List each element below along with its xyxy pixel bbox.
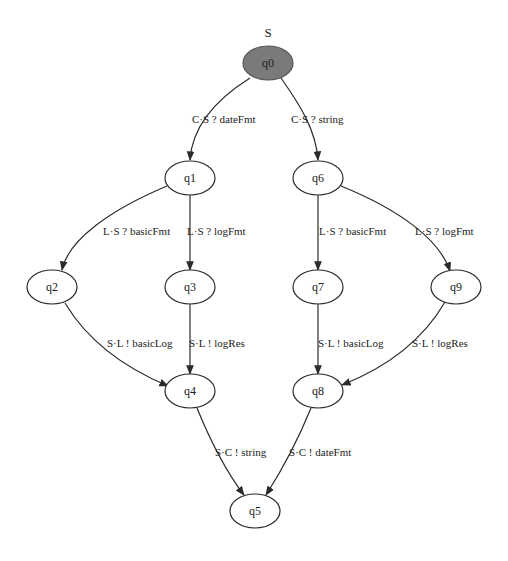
- node-label-q9: q9: [450, 280, 462, 294]
- node-q5: q5: [230, 494, 280, 528]
- edge-label-q6-q9: L·S ? logFmt: [415, 225, 474, 237]
- edge-label-q7-q8: S·L ! basicLog: [318, 337, 384, 349]
- node-q6: q6: [293, 161, 343, 195]
- node-label-q8: q8: [312, 384, 324, 398]
- node-q8: q8: [293, 374, 343, 408]
- edge-label-q0-q6: C·S ? string: [291, 113, 344, 125]
- edge-label-q4-q5: S·C ! string: [215, 446, 267, 458]
- node-q2: q2: [27, 270, 77, 304]
- edge-label-q9-q8: S·L ! logRes: [412, 337, 468, 349]
- state-machine-diagram: S C·S ? dateFmt C·S ? string L·S ? basic…: [0, 0, 508, 561]
- edge-label-q3-q4: S·L ! logRes: [189, 337, 245, 349]
- node-q1: q1: [165, 161, 215, 195]
- edge-label-q6-q7: L·S ? basicFmt: [319, 225, 386, 237]
- node-q7: q7: [293, 270, 343, 304]
- edge-label-q2-q4: S·L ! basicLog: [107, 337, 173, 349]
- node-label-q7: q7: [312, 280, 324, 294]
- node-label-q5: q5: [249, 504, 261, 518]
- graph-title: S: [264, 25, 271, 40]
- node-label-q6: q6: [312, 171, 324, 185]
- edge-label-q8-q5: S·C ! dateFmt: [289, 446, 351, 458]
- edge-label-q0-q1: C·S ? dateFmt: [192, 113, 256, 125]
- edge-label-q1-q3: L·S ? logFmt: [187, 225, 246, 237]
- node-q3: q3: [165, 270, 215, 304]
- node-q9: q9: [431, 270, 481, 304]
- node-label-q4: q4: [184, 384, 196, 398]
- node-q4: q4: [165, 374, 215, 408]
- node-label-q0: q0: [262, 56, 274, 70]
- node-label-q2: q2: [46, 280, 58, 294]
- node-label-q1: q1: [184, 171, 196, 185]
- edges: C·S ? dateFmt C·S ? string L·S ? basicFm…: [62, 78, 474, 495]
- node-label-q3: q3: [184, 280, 196, 294]
- node-q0: q0: [243, 46, 293, 80]
- edge-label-q1-q2: L·S ? basicFmt: [103, 225, 170, 237]
